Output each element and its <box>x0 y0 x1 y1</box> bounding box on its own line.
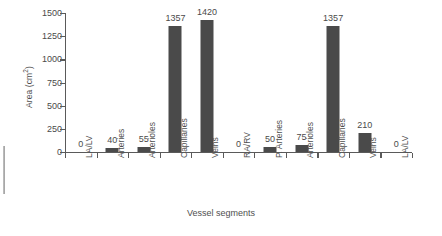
bar[interactable] <box>200 20 213 152</box>
x-axis-tick-label: LA/LV <box>84 135 94 158</box>
bar-slot: 1420 <box>191 13 223 152</box>
bar-chart-figure: Area (cm2) 0250500750100012501500 040551… <box>0 0 442 236</box>
x-axis-tick-label: Arterioles <box>147 122 157 158</box>
x-axis-tick-mark <box>128 153 129 158</box>
x-axis-tick-mark <box>223 153 224 158</box>
x-axis-tick-mark <box>97 153 98 158</box>
bar-slot: 210 <box>349 13 381 152</box>
x-axis-tick-label: RA/RV <box>242 132 252 158</box>
bar-value-label: 1357 <box>165 13 185 23</box>
y-axis-tick-mark <box>60 36 65 37</box>
x-axis-tick-label: Arteries <box>116 129 126 158</box>
bar-slot: 0 <box>380 13 412 152</box>
y-axis-tick-mark <box>60 83 65 84</box>
x-axis-tick-mark <box>349 153 350 158</box>
y-axis-tick-mark <box>60 106 65 107</box>
x-axis-tick-mark <box>160 153 161 158</box>
x-axis-tick-label: Arterioles <box>305 122 315 158</box>
y-axis-tick-label: 1250 <box>42 31 62 41</box>
y-axis-tick-label: 1000 <box>42 54 62 64</box>
x-axis-tick-mark <box>254 153 255 158</box>
bar-value-label: 0 <box>236 139 241 149</box>
x-axis-tick-mark <box>317 153 318 158</box>
bar-value-label: 1420 <box>197 7 217 17</box>
y-axis-tick-mark <box>60 59 65 60</box>
x-axis-tick-mark <box>191 153 192 158</box>
x-axis-title: Vessel segments <box>0 208 442 218</box>
x-axis-tick-label: Capillaries <box>337 118 347 158</box>
x-axis-tick-label: Veins <box>210 137 220 158</box>
bar-value-label: 0 <box>78 139 83 149</box>
bar-value-label: 1357 <box>323 13 343 23</box>
x-axis-tick-mark <box>65 153 66 158</box>
x-axis-tick-labels: LA/LVArteriesArteriolesCapillariesVeinsR… <box>65 158 412 204</box>
x-axis-tick-label: Capillaries <box>179 118 189 158</box>
y-axis-tick-mark <box>60 129 65 130</box>
x-axis-tick-label: LA/LV <box>400 135 410 158</box>
bar-value-label: 0 <box>394 139 399 149</box>
bar-value-label: 210 <box>357 120 372 130</box>
y-axis-tick-labels: 0250500750100012501500 <box>26 0 62 236</box>
y-axis-tick-label: 1500 <box>42 8 62 18</box>
x-axis-tick-label: Veins <box>368 137 378 158</box>
y-axis-tick-mark <box>60 13 65 14</box>
x-axis-tick-mark <box>380 153 381 158</box>
bar-slot: 0 <box>65 13 97 152</box>
x-axis-tick-mark <box>286 153 287 158</box>
x-axis-tick-mark <box>412 153 413 158</box>
x-axis-tick-label: P. Arteries <box>274 120 284 158</box>
